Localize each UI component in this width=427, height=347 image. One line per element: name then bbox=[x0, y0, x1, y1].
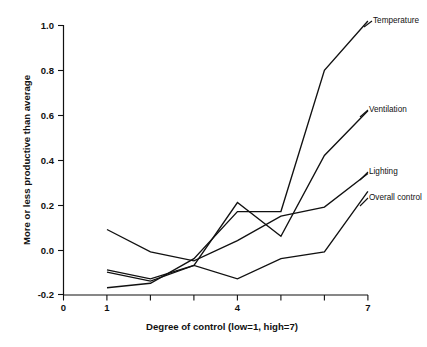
y-tick-label-0.2: 0.2 bbox=[41, 200, 54, 211]
series-line-temperature bbox=[107, 21, 368, 288]
y-tick-label-0.0: 0.0 bbox=[41, 245, 54, 256]
series-line-overall-control bbox=[107, 191, 368, 281]
series-line-lighting bbox=[107, 173, 368, 260]
leader-line-overall-control bbox=[360, 198, 368, 206]
series-label-ventilation: Ventilation bbox=[369, 105, 407, 114]
series-line-ventilation bbox=[107, 111, 368, 279]
x-tick-label-1: 1 bbox=[104, 302, 110, 313]
series-label-temperature: Temperature bbox=[373, 16, 419, 25]
y-tick-label-0.6: 0.6 bbox=[41, 110, 54, 121]
x-axis-ticks bbox=[64, 295, 368, 301]
x-tick-label-7: 7 bbox=[365, 302, 370, 313]
y-tick-label-1.0: 1.0 bbox=[41, 20, 54, 31]
x-tick-label-4: 4 bbox=[235, 302, 241, 313]
line-chart-svg: 1.0 0.8 0.6 0.4 0.2 0.0 -0.2 0 1 4 7 Deg… bbox=[0, 0, 427, 347]
series-label-lighting: Lighting bbox=[369, 167, 398, 176]
series-label-overall-control: Overall control bbox=[369, 193, 422, 202]
chart-container: 1.0 0.8 0.6 0.4 0.2 0.0 -0.2 0 1 4 7 Deg… bbox=[0, 0, 427, 347]
x-axis-title: Degree of control (low=1, high=7) bbox=[146, 321, 298, 332]
y-tick-label-0.4: 0.4 bbox=[41, 155, 55, 166]
y-tick-label--0.2: -0.2 bbox=[38, 289, 54, 300]
y-tick-label-0.8: 0.8 bbox=[41, 65, 54, 76]
y-axis-title: More or less productive than average bbox=[21, 75, 32, 245]
leader-line-ventilation bbox=[360, 110, 368, 117]
x-tick-label-0: 0 bbox=[61, 302, 66, 313]
leader-line-lighting bbox=[360, 172, 368, 180]
y-axis-ticks bbox=[58, 26, 64, 295]
